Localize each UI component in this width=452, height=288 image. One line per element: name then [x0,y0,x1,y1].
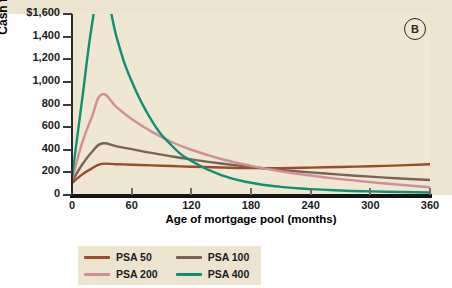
x-tick [429,188,431,195]
legend-swatch-icon [84,256,110,259]
y-tick [63,194,72,196]
x-axis-title: Age of mortgage pool (months) [72,213,430,225]
legend-swatch-icon [84,273,110,276]
series-layer [72,14,430,195]
panel-badge: B [404,18,426,40]
legend-label: PSA 200 [116,268,158,280]
y-tick-label-text: 1,200 [32,51,60,63]
legend-label: PSA 100 [208,251,250,263]
legend-item[interactable]: PSA 50 [84,251,158,263]
x-tick [369,188,371,195]
x-tick [310,188,312,195]
legend-swatch-icon [176,256,202,259]
series-line [72,143,430,181]
legend-swatch-icon [176,273,202,276]
legend-label: PSA 400 [208,268,250,280]
y-tick-label-text: $1,600 [26,6,60,18]
legend-item[interactable]: PSA 400 [176,268,250,280]
y-tick-label-text: 0 [54,187,60,199]
y-tick-label-text: 400 [42,142,60,154]
x-tick-label: 60 [126,199,138,211]
plot-area [72,14,430,195]
y-tick-label-text: 1,000 [32,74,60,86]
chart-figure: 02004006008001,0001,2001,400$1,600 06012… [0,0,452,288]
y-tick [63,171,72,173]
x-tick-label: 120 [182,199,200,211]
y-tick [63,58,72,60]
y-tick-label-text: 800 [42,97,60,109]
y-tick [63,104,72,106]
x-tick [190,188,192,195]
y-axis-title: Cash flows [0,0,10,58]
legend-item[interactable]: PSA 200 [84,268,158,280]
x-tick [131,188,133,195]
y-tick [63,13,72,15]
plot-top-band [0,0,452,14]
x-tick-label: 180 [242,199,260,211]
plot-right-band [430,14,452,195]
x-tick-label: 360 [421,199,439,211]
y-tick [63,36,72,38]
x-tick [250,188,252,195]
y-tick-label-text: 600 [42,119,60,131]
legend-label: PSA 50 [116,251,152,263]
series-line [72,94,430,187]
y-tick [63,149,72,151]
y-tick [63,126,72,128]
x-tick-label: 0 [69,199,75,211]
legend-item[interactable]: PSA 100 [176,251,250,263]
y-tick-label-text: 200 [42,164,60,176]
y-tick-label-text: 1,400 [32,29,60,41]
x-tick-label: 300 [361,199,379,211]
y-tick [63,81,72,83]
chart-legend: PSA 50PSA 100PSA 200PSA 400 [78,246,261,285]
x-tick-label: 240 [301,199,319,211]
